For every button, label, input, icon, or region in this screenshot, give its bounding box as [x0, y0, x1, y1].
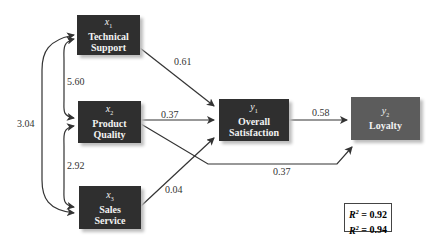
- path-coef-y1-y2: 0.58: [312, 107, 330, 118]
- cov-x1-x3-label: 3.04: [17, 118, 35, 129]
- node-label-line1: Loyalty: [369, 120, 402, 131]
- r-squared-y2: R2 = 0.94: [345, 221, 391, 236]
- node-label-line1: Overall: [238, 116, 270, 127]
- path-coef-x2-y1: 0.37: [161, 109, 179, 120]
- cov-x2-x3-label: 2.92: [67, 160, 85, 171]
- node-overall-satisfaction: y1 Overall Satisfaction: [219, 99, 289, 141]
- path-coef-x3-y1: 0.04: [165, 184, 183, 195]
- cov-x1-x2-label: 5.60: [67, 76, 85, 87]
- node-label-line2: Quality: [93, 129, 125, 140]
- node-label-line1: Sales: [99, 204, 121, 215]
- node-sales-service: x3 Sales Service: [79, 186, 141, 229]
- node-label-line2: Service: [94, 215, 125, 226]
- node-label-line1: Technical: [88, 31, 129, 42]
- r-squared-box: R2 = 0.92 R2 = 0.94: [344, 203, 392, 232]
- node-label-line2: Support: [91, 42, 126, 53]
- node-var: y1: [250, 102, 257, 116]
- node-var: x1: [105, 17, 112, 31]
- node-loyalty: y2 Loyalty: [351, 97, 420, 140]
- node-label-line2: Satisfaction: [229, 127, 279, 138]
- node-product-quality: x2 Product Quality: [78, 101, 141, 143]
- arrow-x3-y1: [141, 138, 214, 206]
- node-var: x3: [106, 190, 113, 204]
- path-coef-x2-y2: 0.37: [273, 166, 291, 177]
- r-squared-y1: R2 = 0.92: [345, 206, 391, 221]
- node-var: x2: [106, 104, 113, 118]
- node-var: y2: [382, 106, 389, 120]
- node-label-line1: Product: [92, 118, 126, 129]
- cov-x1-x3: [42, 35, 74, 213]
- node-technical-support: x1 Technical Support: [77, 15, 140, 55]
- path-coef-x1-y1: 0.61: [174, 56, 192, 67]
